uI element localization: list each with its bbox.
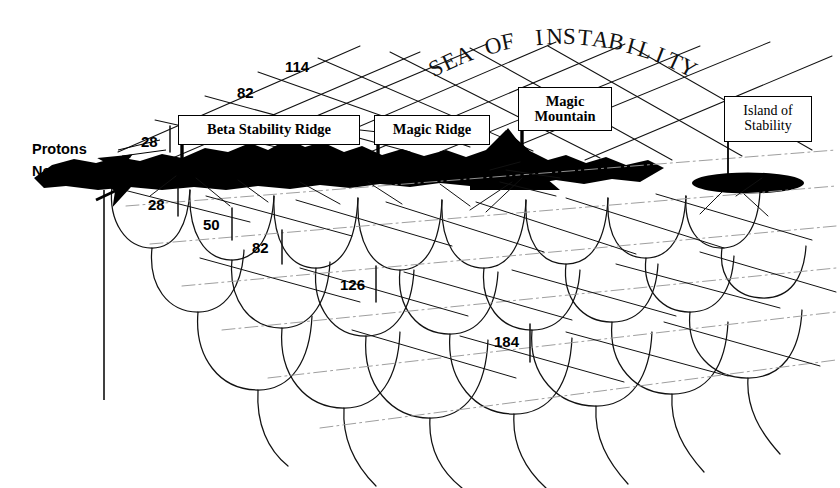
callout-magic-ridge[interactable]: Magic Ridge: [374, 115, 490, 145]
magic-number-lower-184: 184: [494, 333, 519, 350]
axis-label-neutrons: Neutrons: [32, 163, 96, 179]
callout-island-of-stability[interactable]: Island of Stability: [724, 96, 812, 142]
magic-number-lower-28: 28: [148, 196, 165, 213]
axis-label-protons: Protons: [32, 141, 87, 157]
magic-number-proton-28: 28: [141, 133, 158, 150]
magic-number-lower-126: 126: [340, 276, 365, 293]
figure-canvas: SEAOFINSTABILITY: [0, 0, 840, 488]
magic-number-upper-114: 114: [285, 58, 309, 75]
stability-landscape-artwork: [0, 0, 840, 488]
callout-beta-stability-ridge[interactable]: Beta Stability Ridge: [178, 115, 360, 145]
callout-magic-mountain[interactable]: Magic Mountain: [518, 87, 612, 131]
magic-number-upper-82: 82: [237, 84, 254, 101]
magic-number-lower-82: 82: [252, 239, 269, 256]
magic-number-lower-50: 50: [203, 216, 220, 233]
